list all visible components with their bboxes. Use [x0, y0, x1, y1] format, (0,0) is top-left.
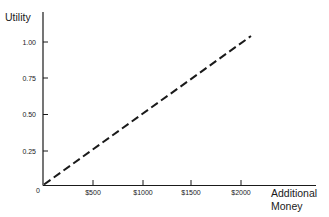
- x-tick-label-1500: $1500: [171, 189, 211, 196]
- x-axis-title-line1: Additional: [271, 188, 317, 199]
- utility-line-dashed: [44, 36, 251, 185]
- y-tick-label-0.75: 0.75: [6, 75, 36, 82]
- chart-canvas: [0, 0, 329, 217]
- x-tick-label-2000: $2000: [221, 189, 261, 196]
- y-tick-label-0.50: 0.50: [6, 111, 36, 118]
- x-axis-title-line2: Money: [271, 201, 303, 212]
- x-tick-label-500: $500: [73, 189, 113, 196]
- x-axis-ticks: [93, 180, 241, 185]
- y-axis-title: Utility: [5, 12, 31, 23]
- origin-label: 0: [36, 187, 40, 194]
- x-tick-label-1000: $1000: [123, 189, 163, 196]
- y-axis-ticks: [43, 42, 48, 151]
- y-tick-label-0.25: 0.25: [6, 148, 36, 155]
- y-tick-label-1.00: 1.00: [6, 39, 36, 46]
